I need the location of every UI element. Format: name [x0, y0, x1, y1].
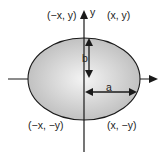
label-b: b: [82, 53, 88, 64]
label-bottom-left: (−x, −y): [28, 120, 64, 131]
label-y-axis: y: [90, 7, 95, 18]
y-axis-arrow-icon: [80, 10, 88, 19]
label-top-right: (x, y): [107, 10, 130, 21]
label-a: a: [106, 82, 112, 93]
x-axis-arrow-icon: [149, 75, 158, 83]
label-top-left: (−x, y): [47, 10, 76, 21]
label-bottom-right: (x, −y): [107, 120, 136, 131]
